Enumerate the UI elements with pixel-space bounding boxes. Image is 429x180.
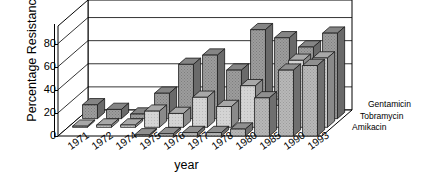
- x-axis-title-label: year: [174, 158, 198, 172]
- y-tick-label: 0: [30, 130, 56, 141]
- y-tick-label: 20: [30, 107, 56, 118]
- bar-chart: Percentage Resistance 020406080: [0, 0, 429, 180]
- legend-item-gentamicin: Gentamicin: [368, 99, 411, 111]
- y-axis-ticks: 020406080: [28, 0, 56, 180]
- legend-item-tobramycin: Tobramycin: [360, 111, 411, 123]
- x-axis-title: year: [0, 158, 429, 172]
- y-tick-label: 80: [30, 38, 56, 49]
- legend: Gentamicin Tobramycin Amikacin: [352, 99, 411, 134]
- chart-canvas: [58, 12, 352, 136]
- y-tick-label: 60: [30, 61, 56, 72]
- legend-item-amikacin: Amikacin: [352, 122, 411, 134]
- plot-area: [58, 12, 352, 136]
- y-axis-line: [54, 24, 55, 137]
- y-tick-label: 40: [30, 84, 56, 95]
